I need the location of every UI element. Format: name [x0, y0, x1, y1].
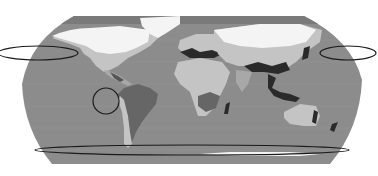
world-map	[0, 0, 378, 176]
arctic-ocean-dark	[60, 16, 320, 24]
